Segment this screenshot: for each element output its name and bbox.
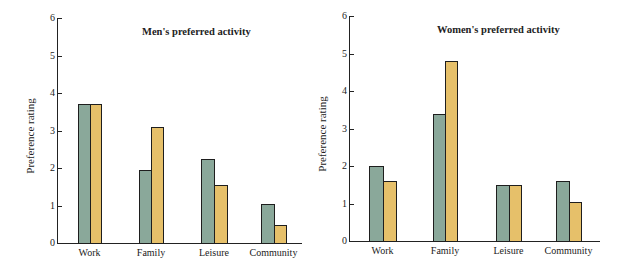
y-tick-label: 4 (335, 86, 347, 96)
x-category-label: Family (413, 245, 477, 256)
women-preferred-activity-chart: 0123456Preference ratingWomen's preferre… (0, 0, 621, 269)
bar-community-yellow (569, 202, 583, 242)
y-tick-label: 6 (335, 11, 347, 21)
bar-work-green (369, 166, 384, 242)
chart-title: Women's preferred activity (437, 24, 560, 35)
bar-community-green (556, 181, 570, 242)
bar-leisure-yellow (509, 185, 523, 242)
y-tick-label: 2 (335, 161, 347, 171)
bar-leisure-green (496, 185, 510, 242)
y-tick (349, 16, 354, 17)
y-tick-label: 1 (335, 199, 347, 209)
y-tick (349, 54, 354, 55)
y-axis-label: Preference rating (316, 74, 328, 194)
y-tick (349, 166, 354, 167)
x-category-label: Leisure (476, 245, 541, 256)
x-category-label: Community (536, 245, 601, 256)
y-tick (349, 204, 354, 205)
y-tick-label: 0 (335, 236, 347, 246)
y-tick (349, 129, 354, 130)
bar-work-yellow (383, 181, 398, 242)
y-tick-label: 3 (335, 124, 347, 134)
y-tick (349, 241, 354, 242)
x-category-label: Work (349, 245, 416, 256)
y-tick (349, 91, 354, 92)
bar-family-yellow (445, 61, 458, 242)
y-tick-label: 5 (335, 49, 347, 59)
